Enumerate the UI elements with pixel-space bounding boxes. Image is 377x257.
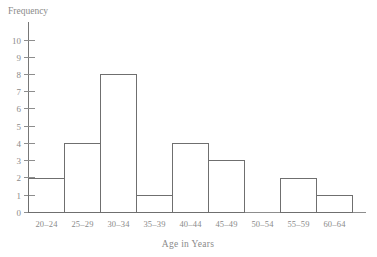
x-tick-label: 30–34	[107, 219, 130, 229]
bar-30-34	[101, 75, 137, 213]
bar-60-64	[317, 195, 353, 212]
bar-25-29	[65, 144, 101, 213]
x-tick-label: 50–54	[251, 219, 274, 229]
x-tick-label: 45–49	[215, 219, 237, 229]
x-tick-label: 20–24	[35, 219, 58, 229]
y-tick-label: 7	[17, 87, 22, 97]
y-tick-label: 4	[17, 139, 22, 149]
x-tick-label: 25–29	[71, 219, 93, 229]
bar-55-59	[281, 178, 317, 212]
histogram-canvas: 10 9 8 7 6 5 4 3 2 1 0 20–24 25–2	[0, 0, 377, 257]
y-tick-label: 6	[17, 104, 22, 114]
y-tick-labels: 10 9 8 7 6 5 4 3 2 1 0	[12, 36, 22, 218]
y-tick-label: 3	[17, 156, 22, 166]
x-tick-labels: 20–24 25–29 30–34 35–39 40–44 45–49 50–5…	[35, 219, 346, 229]
x-tick-label: 55–59	[287, 219, 309, 229]
bar-45-49	[209, 161, 245, 213]
x-tick-label: 40–44	[179, 219, 202, 229]
x-tick-label: 60–64	[323, 219, 346, 229]
x-axis-title: Age in Years	[162, 239, 214, 249]
histogram-figure: 10 9 8 7 6 5 4 3 2 1 0 20–24 25–2	[0, 0, 377, 257]
y-tick-label: 9	[17, 53, 22, 63]
y-tick-label: 0	[17, 208, 22, 218]
bar-40-44	[173, 144, 209, 213]
y-tick-label: 5	[17, 122, 22, 132]
y-tick-marks	[24, 41, 35, 213]
x-tick-label: 35–39	[143, 219, 165, 229]
histogram-bars	[29, 75, 353, 213]
bar-35-39	[137, 195, 173, 212]
y-tick-label: 1	[17, 191, 22, 201]
y-tick-label: 8	[17, 70, 22, 80]
y-axis-title: Frequency	[8, 6, 48, 16]
y-tick-label: 2	[17, 173, 22, 183]
y-tick-label: 10	[12, 36, 22, 46]
